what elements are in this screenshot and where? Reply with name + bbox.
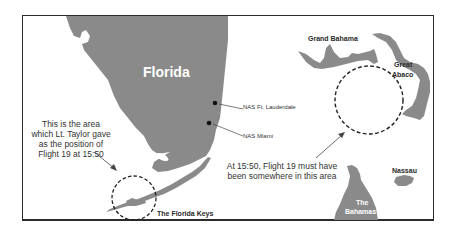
florida-label: Florida	[143, 64, 190, 80]
nassau-island	[394, 175, 414, 186]
grand-bahama-island	[298, 44, 378, 69]
nas-ft-lauderdale-label: NAS Ft. Lauderdale	[243, 104, 296, 110]
great-abaco-label-line2: Abaco	[392, 71, 413, 78]
nas-ft-lauderdale-marker	[213, 101, 218, 106]
map-graphics	[0, 0, 456, 233]
bahamas-label-line1: The	[356, 199, 368, 206]
nassau-label: Nassau	[392, 167, 417, 174]
great-abaco-label-line1: Great	[394, 61, 412, 68]
nas-miami-marker	[207, 121, 212, 126]
bahamas-label-line2: Bahamas	[345, 208, 376, 215]
grand-bahama-label: Grand Bahama	[308, 35, 358, 42]
nas-miami-label: NAS Miami	[243, 133, 273, 139]
taylor-area-annotation: This is the area which Lt. Taylor gave a…	[30, 119, 112, 159]
actual-area-annotation: At 15:50, Flight 19 must have been somew…	[218, 161, 346, 181]
florida-keys-label: The Florida Keys	[157, 210, 213, 217]
